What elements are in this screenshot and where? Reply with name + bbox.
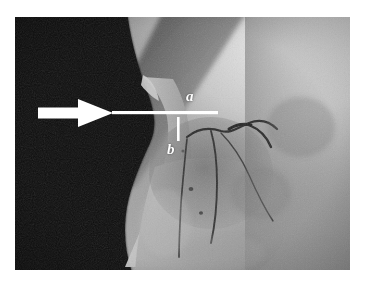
photograph-canvas xyxy=(15,17,350,270)
photo-vignette xyxy=(15,17,350,270)
figure-root: a b xyxy=(0,0,365,284)
photo-content xyxy=(15,17,350,270)
anatomical-photograph xyxy=(15,17,350,270)
